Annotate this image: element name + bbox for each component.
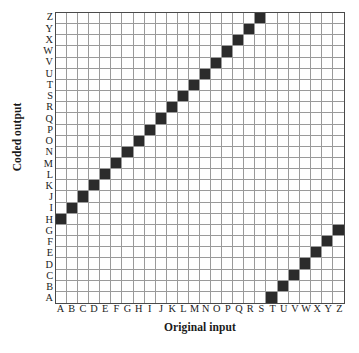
cipher-cell bbox=[67, 158, 78, 169]
cipher-cell bbox=[278, 46, 289, 57]
cipher-cell bbox=[89, 158, 100, 169]
cipher-cell bbox=[233, 136, 244, 147]
cipher-cell bbox=[122, 158, 133, 169]
cipher-cell bbox=[100, 258, 111, 269]
x-tick-B: B bbox=[66, 304, 77, 319]
cipher-cell bbox=[322, 225, 333, 236]
y-tick-Y: Y bbox=[38, 23, 54, 34]
cipher-cell bbox=[100, 281, 111, 292]
cipher-cell bbox=[233, 46, 244, 57]
cipher-cell bbox=[178, 35, 189, 46]
x-tick-X: X bbox=[312, 304, 323, 319]
cipher-cell bbox=[322, 69, 333, 80]
cipher-cell bbox=[100, 158, 111, 169]
cipher-cell bbox=[178, 258, 189, 269]
cipher-cell-filled bbox=[111, 158, 122, 169]
cipher-cell bbox=[200, 180, 211, 191]
cipher-cell bbox=[322, 102, 333, 113]
cipher-cell bbox=[111, 58, 122, 69]
cipher-cell bbox=[189, 236, 200, 247]
cipher-cell bbox=[156, 258, 167, 269]
cipher-cell bbox=[211, 214, 222, 225]
cipher-cell bbox=[289, 91, 300, 102]
cipher-cell bbox=[89, 203, 100, 214]
cipher-cell bbox=[167, 281, 178, 292]
cipher-cell bbox=[100, 247, 111, 258]
cipher-cell bbox=[189, 58, 200, 69]
cipher-cell bbox=[167, 158, 178, 169]
cipher-cell bbox=[145, 292, 156, 303]
cipher-cell bbox=[67, 270, 78, 281]
cipher-cell bbox=[322, 292, 333, 303]
cipher-cell bbox=[300, 236, 311, 247]
cipher-cell bbox=[145, 147, 156, 158]
cipher-cell bbox=[78, 46, 89, 57]
cipher-cell bbox=[311, 113, 322, 124]
cipher-cell bbox=[167, 292, 178, 303]
cipher-cell bbox=[211, 80, 222, 91]
cipher-cell bbox=[56, 292, 67, 303]
cipher-cell bbox=[233, 13, 244, 24]
cipher-cell bbox=[211, 102, 222, 113]
cipher-cell bbox=[311, 225, 322, 236]
cipher-cell bbox=[156, 292, 167, 303]
cipher-cell bbox=[67, 13, 78, 24]
cipher-cell bbox=[156, 236, 167, 247]
x-tick-Z: Z bbox=[334, 304, 345, 319]
cipher-cell bbox=[278, 169, 289, 180]
cipher-cell bbox=[122, 102, 133, 113]
cipher-cell bbox=[100, 236, 111, 247]
cipher-cell bbox=[255, 247, 266, 258]
cipher-cell bbox=[111, 180, 122, 191]
x-tick-D: D bbox=[88, 304, 99, 319]
cipher-cell bbox=[167, 203, 178, 214]
cipher-cell bbox=[322, 13, 333, 24]
cipher-cell bbox=[156, 24, 167, 35]
cipher-cell bbox=[255, 91, 266, 102]
cipher-cell bbox=[244, 281, 255, 292]
cipher-cell bbox=[156, 46, 167, 57]
cipher-cell bbox=[244, 270, 255, 281]
cipher-cell bbox=[322, 125, 333, 136]
cipher-cell-filled bbox=[178, 91, 189, 102]
cipher-cell bbox=[222, 270, 233, 281]
cipher-cell bbox=[67, 91, 78, 102]
cipher-cell bbox=[145, 203, 156, 214]
cipher-cell bbox=[300, 191, 311, 202]
cipher-cell bbox=[167, 147, 178, 158]
cipher-cell bbox=[167, 136, 178, 147]
cipher-cell bbox=[211, 136, 222, 147]
cipher-cell bbox=[156, 225, 167, 236]
cipher-cell bbox=[56, 147, 67, 158]
cipher-cell bbox=[167, 180, 178, 191]
cipher-cell bbox=[289, 125, 300, 136]
cipher-cell bbox=[255, 225, 266, 236]
cipher-cell bbox=[100, 24, 111, 35]
cipher-cell bbox=[100, 46, 111, 57]
cipher-cell bbox=[233, 91, 244, 102]
x-axis-tick-labels: ABCDEFGHIJKLMNOPQRSTUVWXYZ bbox=[55, 304, 345, 319]
x-tick-J: J bbox=[155, 304, 166, 319]
cipher-cell bbox=[111, 258, 122, 269]
cipher-cell bbox=[167, 236, 178, 247]
cipher-cell bbox=[156, 180, 167, 191]
y-axis-title: Coded output bbox=[11, 87, 23, 187]
cipher-cell bbox=[200, 80, 211, 91]
cipher-cell bbox=[222, 91, 233, 102]
cipher-cell bbox=[266, 125, 277, 136]
cipher-cell bbox=[300, 214, 311, 225]
cipher-cell bbox=[222, 281, 233, 292]
cipher-cell-filled bbox=[100, 169, 111, 180]
y-tick-F: F bbox=[38, 237, 54, 248]
cipher-cell bbox=[122, 270, 133, 281]
cipher-cell bbox=[167, 191, 178, 202]
cipher-cell bbox=[322, 203, 333, 214]
cipher-cell bbox=[255, 147, 266, 158]
cipher-cell bbox=[322, 214, 333, 225]
cipher-cell bbox=[244, 136, 255, 147]
cipher-cell bbox=[189, 214, 200, 225]
y-tick-S: S bbox=[38, 91, 54, 102]
cipher-cell bbox=[67, 292, 78, 303]
cipher-cell bbox=[244, 203, 255, 214]
cipher-cell bbox=[233, 203, 244, 214]
